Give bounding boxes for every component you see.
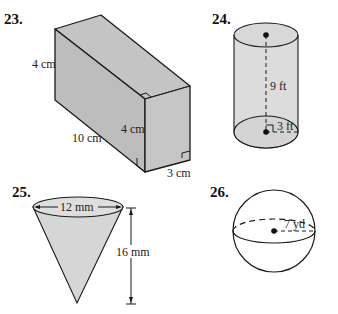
- cylinder-height-label: 9 ft: [270, 79, 287, 93]
- problem-23: 23. 4 cm 10 cm 4 cm 3 cm: [4, 11, 191, 180]
- problem-number: 24.: [212, 11, 231, 27]
- prism-figure: [55, 15, 190, 172]
- problem-24: 24. 9 ft 3 ft: [212, 11, 298, 148]
- problem-number: 23.: [4, 11, 23, 27]
- problem-number: 26.: [210, 184, 229, 200]
- sphere-radius-label: 7 yd: [284, 217, 305, 231]
- problem-number: 25.: [12, 184, 31, 200]
- prism-length-label: 10 cm: [72, 131, 102, 145]
- prism-front-height-label: 4 cm: [121, 122, 145, 136]
- cone-diameter-label: 12 mm: [60, 200, 94, 214]
- cone-height-label: 16 mm: [116, 245, 150, 259]
- sphere-figure: [233, 190, 315, 272]
- problem-25: 25. 12 mm 16 mm: [12, 184, 150, 304]
- prism-width-label: 3 cm: [167, 166, 191, 180]
- cylinder-radius-label: 3 ft: [277, 119, 294, 133]
- prism-height-label: 4 cm: [32, 57, 56, 71]
- problem-26: 26. 7 yd: [210, 184, 315, 272]
